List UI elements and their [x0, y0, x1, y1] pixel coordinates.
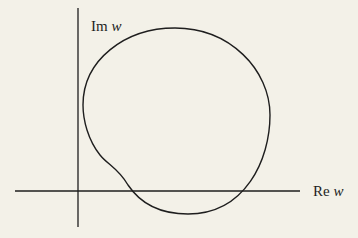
re-axis-label: Re w: [313, 183, 343, 199]
diagram-canvas: Im w Re w: [0, 0, 358, 238]
contour-curve: [83, 28, 270, 214]
im-axis-label: Im w: [91, 18, 121, 34]
